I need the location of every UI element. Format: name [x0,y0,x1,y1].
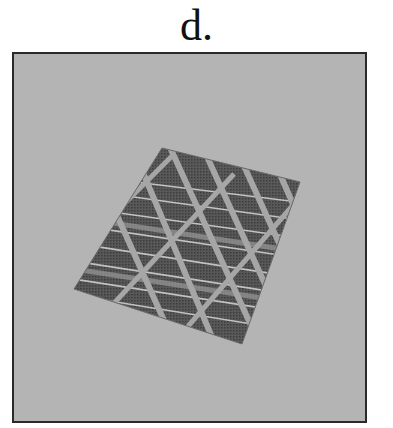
fabric-swatch-image [14,54,365,421]
photo-frame [12,52,367,423]
panel-label: d. [0,2,393,50]
